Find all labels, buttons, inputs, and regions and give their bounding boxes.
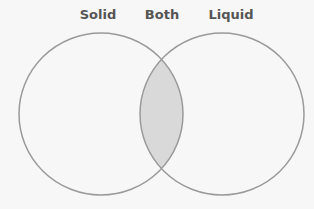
venn-diagram <box>0 0 314 209</box>
intersection-region <box>140 33 304 195</box>
